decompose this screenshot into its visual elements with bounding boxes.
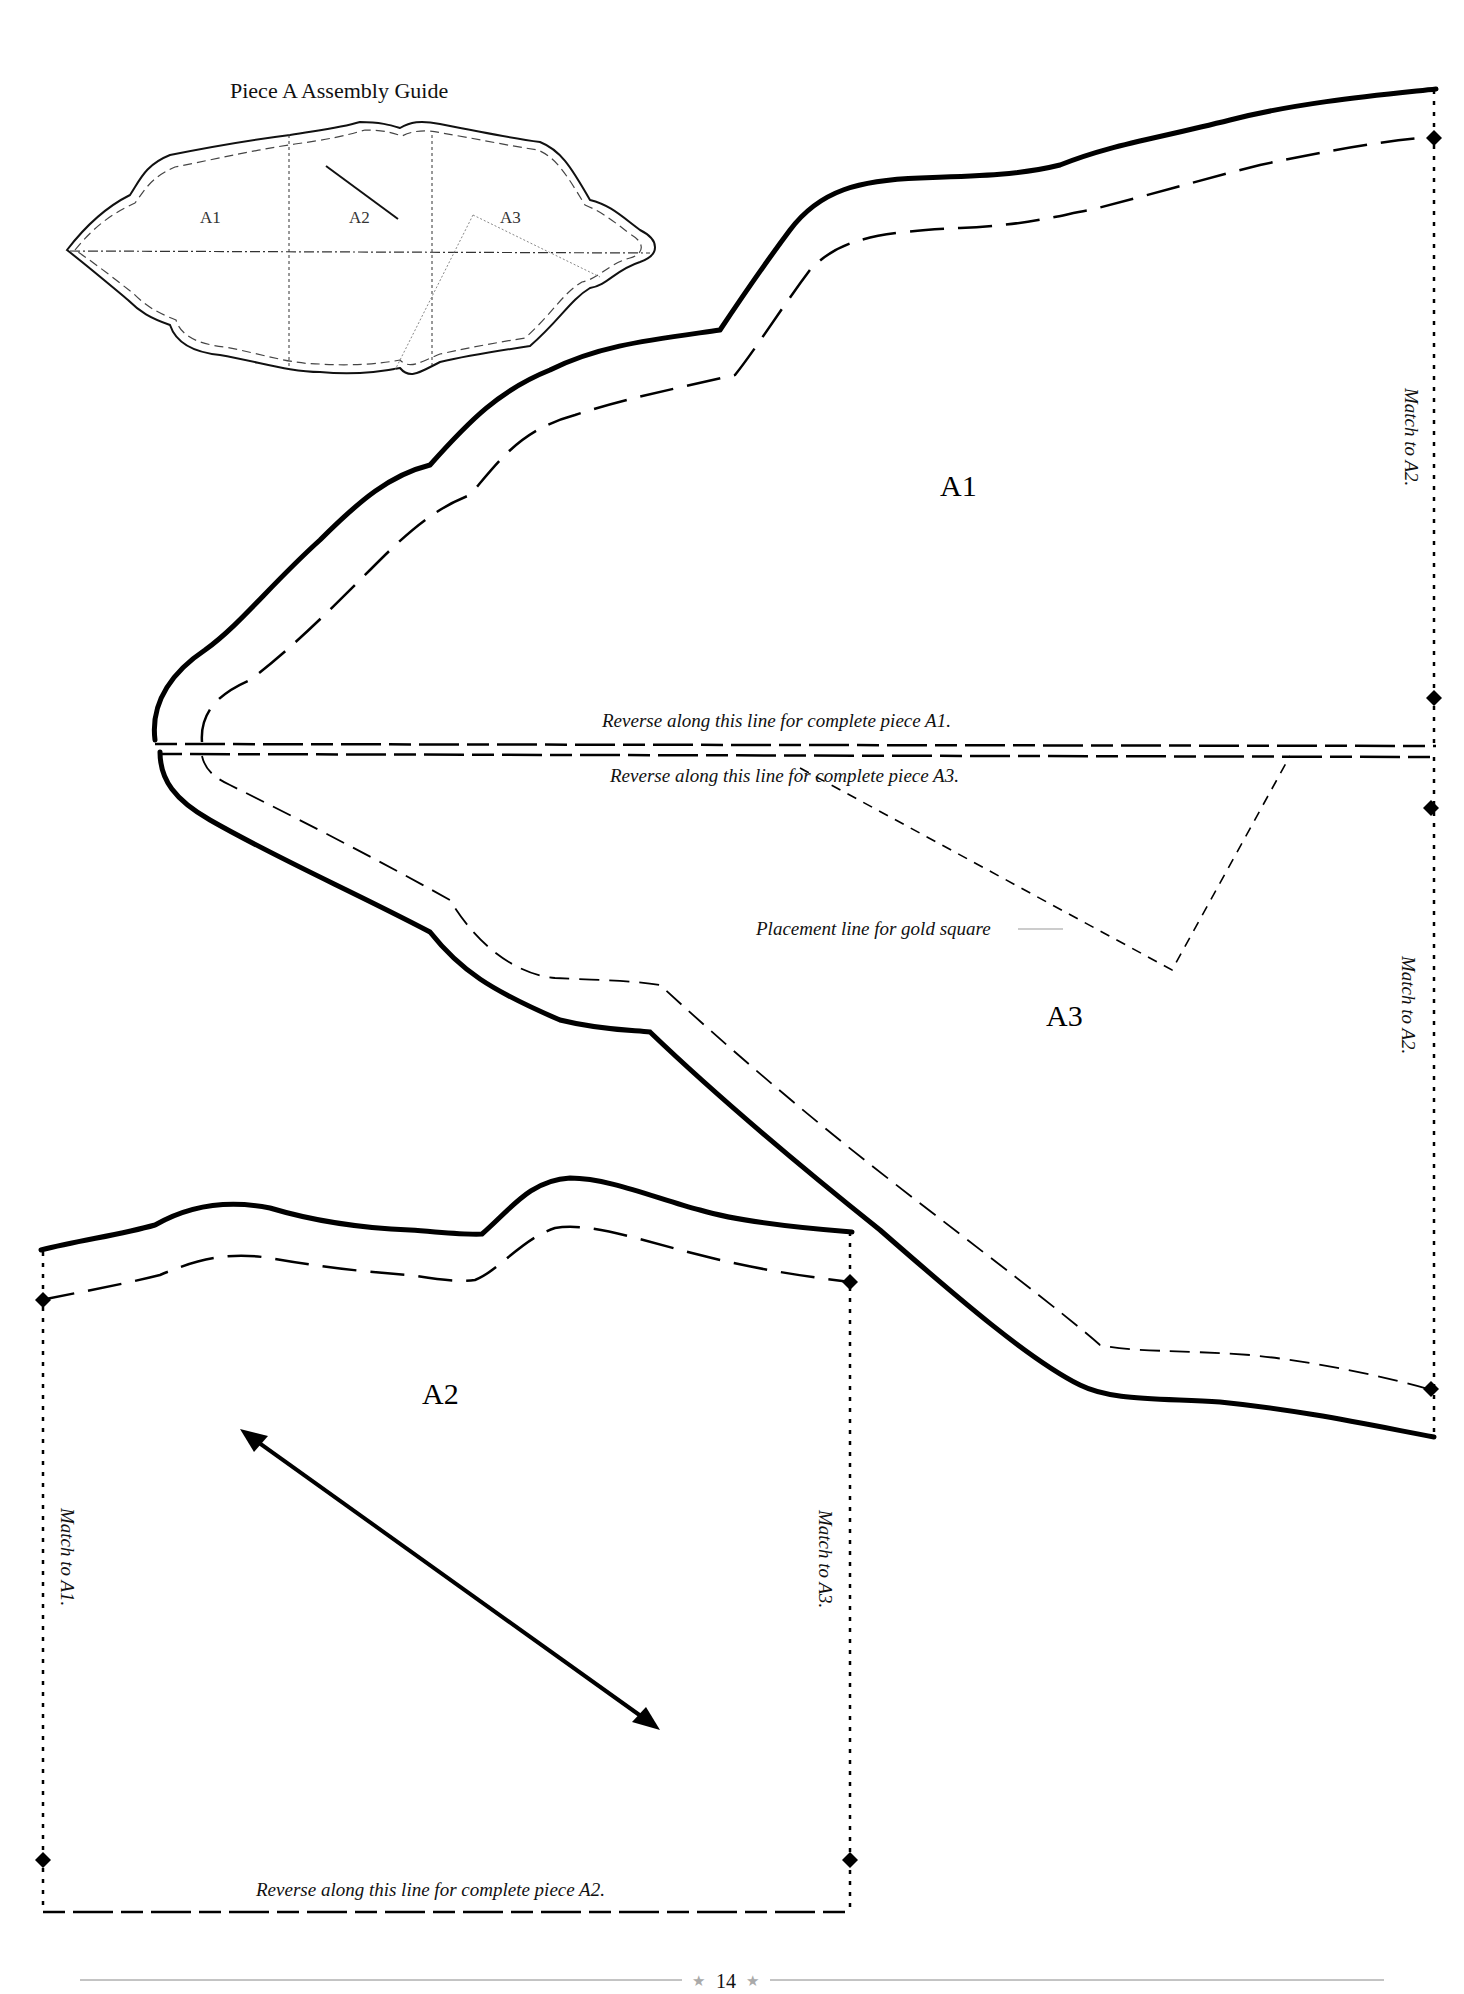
a2-match-dot-left-top <box>35 1292 51 1308</box>
a2-match-dot-left-bottom <box>35 1852 51 1868</box>
a2-match-left-note: Match to A1. <box>56 1508 78 1606</box>
a1-match-dot-bottom <box>1426 690 1442 706</box>
footer-star-left: ★ <box>692 1972 705 1990</box>
a2-reverse-note: Reverse along this line for complete pie… <box>255 1879 605 1900</box>
a1-match-note: Match to A2. <box>1400 388 1422 486</box>
a2-match-dot-right-bottom <box>842 1852 858 1868</box>
guide-cut-line <box>67 122 655 374</box>
piece-label-a2: A2 <box>422 1377 459 1410</box>
piece-a1 <box>154 89 1442 746</box>
a1-cut-line <box>154 89 1436 740</box>
piece-label-a3: A3 <box>1046 999 1083 1032</box>
a1-seam-line <box>202 137 1432 742</box>
a1-reverse-note: Reverse along this line for complete pie… <box>601 710 951 731</box>
guide-label-a2: A2 <box>349 208 370 227</box>
pattern-drawing: A1 A2 A3 A1 Reverse along this line for … <box>0 0 1464 1994</box>
assembly-guide-title: Piece A Assembly Guide <box>230 78 448 104</box>
a3-seam-line <box>202 756 1432 1390</box>
a2-match-right-note: Match to A3. <box>814 1510 836 1608</box>
a3-match-note: Match to A2. <box>1397 956 1419 1054</box>
guide-label-a1: A1 <box>200 208 221 227</box>
a2-cut-line <box>41 1178 852 1250</box>
footer-star-right: ★ <box>746 1972 759 1990</box>
guide-label-a3: A3 <box>500 208 521 227</box>
a2-seam-line <box>41 1227 850 1300</box>
a3-match-dot-bottom <box>1423 1381 1439 1397</box>
a1-match-dot-top <box>1426 130 1442 146</box>
gold-square-placement-note: Placement line for gold square <box>755 918 991 939</box>
piece-label-a1: A1 <box>940 469 977 502</box>
piece-a2 <box>35 1178 858 1912</box>
a3-match-dot-top <box>1423 800 1439 816</box>
a3-reverse-note: Reverse along this line for complete pie… <box>609 765 959 786</box>
grainline-arrow-icon <box>240 1429 660 1730</box>
guide-seam-line <box>75 130 641 365</box>
piece-a3 <box>160 752 1439 1437</box>
a2-match-dot-right-top <box>842 1274 858 1290</box>
assembly-guide-diagram <box>67 122 655 374</box>
page-number: 14 <box>716 1970 736 1992</box>
a3-cut-line <box>160 752 1434 1437</box>
